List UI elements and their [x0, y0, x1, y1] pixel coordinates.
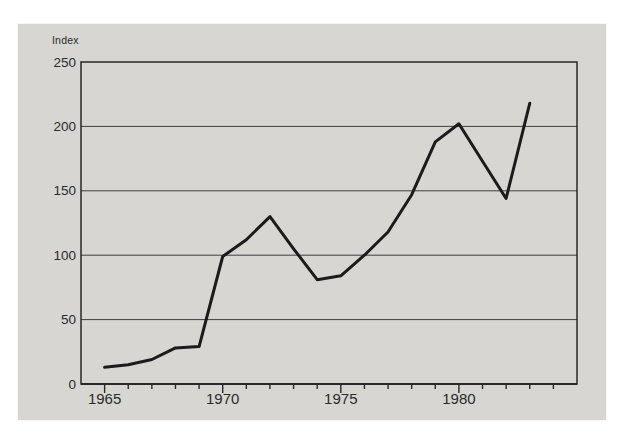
- plot-border: [81, 62, 577, 384]
- y-tick-label-250: 250: [53, 55, 76, 70]
- x-tick-label-1970: 1970: [206, 390, 239, 407]
- x-tick-label-1975: 1975: [324, 390, 357, 407]
- y-tick-label-50: 50: [61, 312, 76, 327]
- chart-figure: Index 0501001502002501965197019751980: [0, 0, 622, 445]
- data-line-index: [105, 103, 530, 367]
- x-tick-label-1980: 1980: [442, 390, 475, 407]
- x-tick-label-1965: 1965: [88, 390, 121, 407]
- y-tick-label-150: 150: [53, 183, 76, 198]
- y-tick-label-100: 100: [53, 248, 76, 263]
- line-chart: 0501001502002501965197019751980: [0, 0, 622, 445]
- y-tick-label-0: 0: [68, 377, 76, 392]
- y-tick-label-200: 200: [53, 119, 76, 134]
